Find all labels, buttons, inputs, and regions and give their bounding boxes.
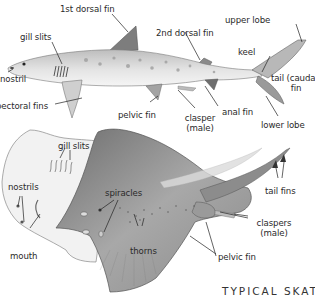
- label-claspers-line2: (male): [250, 228, 298, 238]
- label-tail-caudal-line1: tail (caudal): [270, 73, 315, 83]
- label-pelvic-fin-shark: pelvic fin: [118, 110, 156, 120]
- label-tail-caudal-line2: fin: [270, 83, 315, 93]
- label-pectoral-fins: pectoral fins: [0, 101, 48, 111]
- label-mouth: mouth: [10, 251, 37, 261]
- label-second-dorsal-fin: 2nd dorsal fin: [156, 28, 214, 38]
- label-pelvic-fin-skate: pelvic fin: [218, 252, 256, 262]
- label-anal-fin: anal fin: [222, 107, 253, 117]
- label-tail-caudal-fin: tail (caudal) fin: [270, 73, 315, 93]
- shark-illustration: [8, 26, 306, 118]
- label-upper-lobe: upper lobe: [225, 15, 270, 25]
- label-nostril: nostril: [0, 74, 26, 84]
- label-thorns: thorns: [130, 246, 157, 256]
- label-spiracles: spiracles: [105, 188, 142, 198]
- label-gill-slits-skate: gill slits: [58, 141, 89, 151]
- label-claspers-line1: claspers: [250, 218, 298, 228]
- label-first-dorsal-fin: 1st dorsal fin: [60, 4, 115, 14]
- skate-dorsal-illustration: [56, 129, 290, 292]
- label-clasper-line1: clasper: [180, 113, 220, 123]
- label-clasper: clasper (male): [180, 113, 220, 133]
- label-tail-fins: tail fins: [265, 186, 296, 196]
- label-lower-lobe: lower lobe: [261, 120, 305, 130]
- label-gill-slits-shark: gill slits: [20, 32, 51, 42]
- label-claspers: claspers (male): [250, 218, 298, 238]
- label-keel: keel: [238, 47, 255, 57]
- label-clasper-line2: (male): [180, 123, 220, 133]
- diagram-title: TYPICAL SKATE: [222, 285, 315, 297]
- label-nostrils: nostrils: [8, 182, 39, 192]
- diagram-artwork: [0, 0, 315, 300]
